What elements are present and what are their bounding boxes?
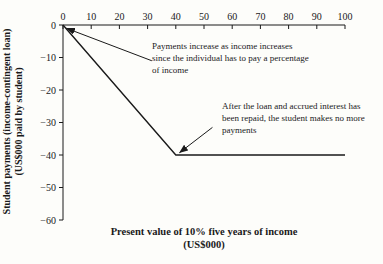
annotation-line: of income	[152, 64, 309, 76]
x-tick-label: 0	[61, 11, 66, 22]
annotation-payments-increase: Payments increase as income increases si…	[152, 40, 309, 76]
y-tick-label: −10	[40, 52, 56, 63]
x-tick-label: 20	[114, 11, 124, 22]
y-tick-label: −20	[40, 85, 56, 96]
y-axis-title-line-1: Student payments (income-contingent loan…	[1, 22, 13, 222]
y-tick-label: −40	[40, 150, 56, 161]
x-tick-label: 90	[312, 11, 322, 22]
y-tick-label: −50	[40, 182, 56, 193]
annotation-arrow-2	[179, 127, 212, 152]
x-axis-title: Present value of 10% five years of incom…	[63, 226, 345, 251]
y-tick-label: −60	[40, 215, 56, 226]
x-tick-label: 70	[255, 11, 265, 22]
x-tick-label: 100	[338, 11, 353, 22]
y-tick-label: −30	[40, 117, 56, 128]
x-tick-label: 60	[227, 11, 237, 22]
annotation-line: Payments increase as income increases	[152, 40, 309, 52]
annotation-line: After the loan and accrued interest has	[222, 100, 365, 112]
annotation-no-more-payments: After the loan and accrued interest has …	[222, 100, 365, 136]
annotation-line: been repaid, the student makes no more	[222, 112, 365, 124]
x-tick-label: 10	[86, 11, 96, 22]
annotation-line: since the individual has to pay a percen…	[152, 52, 309, 64]
x-tick-label: 80	[284, 11, 294, 22]
x-tick-label: 30	[143, 11, 153, 22]
x-tick-label: 40	[171, 11, 181, 22]
x-axis-title-line-2: (US$000)	[63, 239, 345, 252]
x-axis-title-line-1: Present value of 10% five years of incom…	[63, 226, 345, 239]
figure-income-contingent-loan-chart: 01020304050607080901000−10−20−30−40−50−6…	[0, 0, 383, 264]
y-axis-title: Student payments (income-contingent loan…	[1, 22, 24, 222]
y-tick-label: 0	[51, 20, 56, 31]
y-axis-title-line-2: (US$000 paid by student)	[12, 22, 24, 222]
x-tick-label: 50	[199, 11, 209, 22]
annotation-line: payments	[222, 124, 365, 136]
